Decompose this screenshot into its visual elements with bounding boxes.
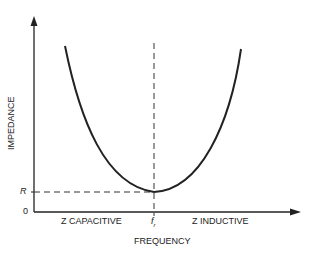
r-tick-label: R — [20, 186, 27, 196]
impedance-chart — [0, 0, 314, 261]
x-axis-label: FREQUENCY — [134, 236, 191, 246]
z-inductive-label: Z INDUCTIVE — [192, 216, 249, 226]
fr-tick-label: fr — [151, 216, 156, 228]
y-axis-arrow-icon — [31, 16, 38, 26]
y-axis-label: IMPEDANCE — [6, 96, 16, 150]
x-axis-arrow-icon — [290, 209, 301, 216]
zero-tick-label: 0 — [23, 206, 28, 216]
z-capacitive-label: Z CAPACITIVE — [61, 216, 122, 226]
impedance-curve — [65, 46, 241, 192]
